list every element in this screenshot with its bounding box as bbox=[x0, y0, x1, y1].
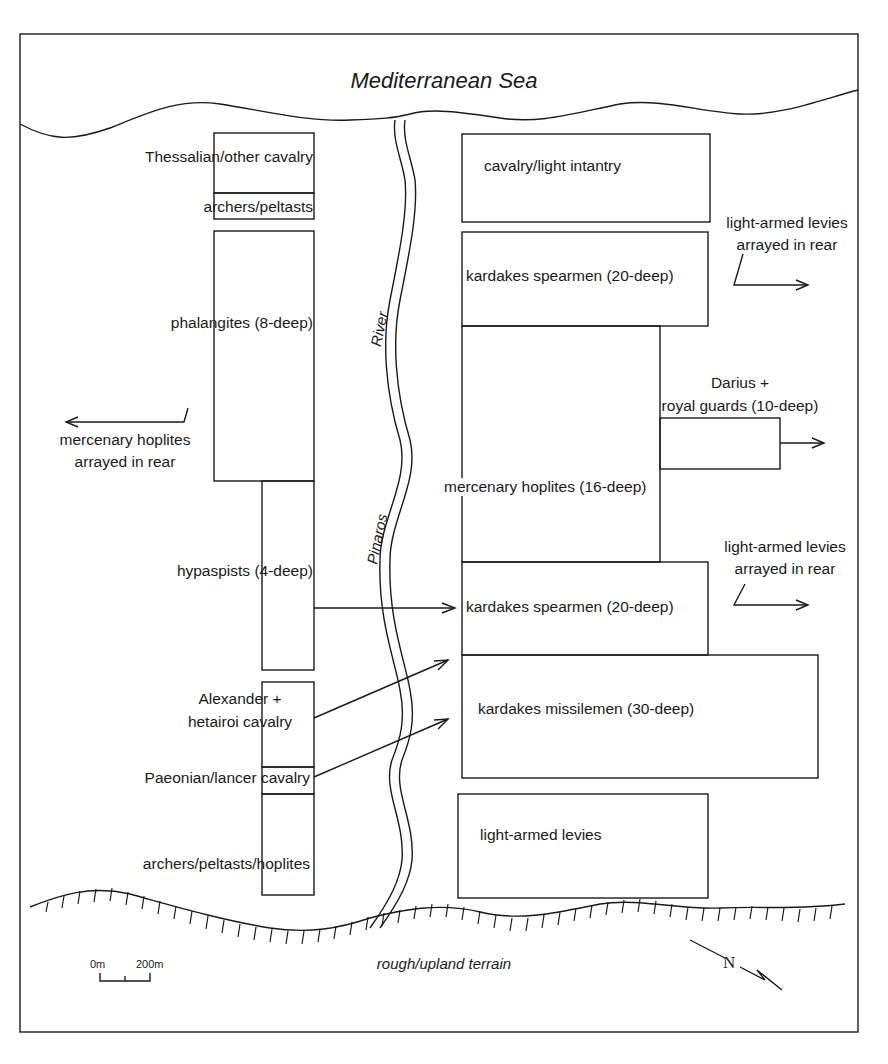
label-archers-hoplites: archers/peltasts/hoplites bbox=[60, 855, 310, 873]
unit-mercenary-hoplites-box bbox=[462, 326, 660, 562]
label-missilemen: kardakes missilemen (30-deep) bbox=[478, 700, 694, 718]
label-kardakes-lower: kardakes spearmen (20-deep) bbox=[466, 598, 674, 616]
label-mercenary-hoplites: mercenary hoplites (16-deep) bbox=[444, 478, 646, 496]
unit-archers-hoplites-box bbox=[262, 794, 314, 895]
label-alexander: Alexander + bbox=[170, 690, 310, 708]
unit-phalangites-box bbox=[214, 231, 314, 481]
label-persian-rear-upper-1: light-armed levies bbox=[712, 214, 862, 232]
arrow-alexander-attack bbox=[314, 660, 448, 718]
scale-bar bbox=[100, 973, 150, 981]
unit-persian-cavalry-box bbox=[462, 134, 710, 222]
label-royal-guards: royal guards (10-deep) bbox=[660, 397, 820, 415]
label-thessalian-cavalry: Thessalian/other cavalry bbox=[83, 148, 313, 166]
label-macedonian-rear-1: mercenary hoplites bbox=[40, 431, 210, 449]
label-hypaspists: hypaspists (4-deep) bbox=[60, 562, 313, 580]
label-persian-rear-lower-1: light-armed levies bbox=[710, 538, 860, 556]
coastline bbox=[20, 90, 858, 137]
arrow-macedonian-rear bbox=[66, 408, 188, 422]
arrow-paeonian-attack bbox=[314, 719, 448, 777]
scale-label-end: 200m bbox=[136, 955, 164, 973]
label-hetairoi: hetairoi cavalry bbox=[170, 713, 310, 731]
unit-darius-box bbox=[660, 418, 780, 469]
label-darius: Darius + bbox=[660, 374, 820, 392]
label-paeonian: Paeonian/lancer cavalry bbox=[60, 769, 310, 787]
label-macedonian-rear-2: arrayed in rear bbox=[40, 453, 210, 471]
arrow-persian-rear-lower bbox=[734, 584, 808, 605]
compass-north-label: N bbox=[723, 954, 735, 972]
label-archers-peltasts: archers/peltasts bbox=[83, 198, 313, 216]
label-light-levies: light-armed levies bbox=[480, 826, 601, 844]
scale-label-start: 0m bbox=[90, 955, 105, 973]
label-terrain: rough/upland terrain bbox=[0, 955, 888, 973]
label-persian-cavalry: cavalry/light intantry bbox=[484, 157, 621, 175]
terrain-hatching bbox=[46, 888, 832, 944]
label-phalangites: phalangites (8-deep) bbox=[83, 314, 313, 332]
map-frame bbox=[20, 34, 858, 1032]
label-persian-rear-upper-2: arrayed in rear bbox=[712, 236, 862, 254]
map-title: Mediterranean Sea bbox=[0, 68, 888, 94]
label-persian-rear-lower-2: arrayed in rear bbox=[710, 560, 860, 578]
label-kardakes-upper: kardakes spearmen (20-deep) bbox=[466, 267, 674, 285]
terrain-ridge bbox=[30, 891, 845, 931]
unit-light-levies-box bbox=[458, 794, 708, 898]
